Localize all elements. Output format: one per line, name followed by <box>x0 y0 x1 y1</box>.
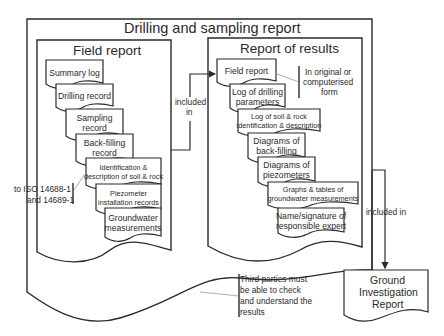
report-of-results-document-label: Log of soil & rock <box>251 112 307 121</box>
diagram-title: Drilling and sampling report <box>124 20 301 36</box>
field-report-document-label: Back-filling <box>84 138 126 148</box>
field-report-document-label: Drilling record <box>58 91 111 101</box>
ground-investigation-report: Ground Investigation Report <box>344 270 428 321</box>
field-report-document-label: record <box>82 123 107 133</box>
field-report-document-label: description of soil & rock <box>84 172 163 181</box>
field-report-document-label: measurements <box>105 223 162 233</box>
included-in-label-2: included in <box>366 207 406 217</box>
gir-line-1: Ground <box>370 274 405 286</box>
report-of-results-document-label: parameters <box>236 97 279 107</box>
form-note-line-1: In original or <box>305 67 351 77</box>
third-parties-line-2: be able to check <box>240 285 302 295</box>
iso-note-line-2: and 14689-1 <box>27 195 74 205</box>
report-of-results-document-label: Diagrams of <box>253 136 300 146</box>
report-of-results-heading: Report of results <box>240 41 339 56</box>
third-parties-note: Third parties must be able to check and … <box>200 274 313 317</box>
field-report-document-label: Summary log <box>49 68 100 78</box>
field-report-document-label: Identification & <box>100 163 148 172</box>
report-of-results-document-label: back-filling <box>256 146 297 156</box>
included-in-arrow-2 <box>372 170 385 268</box>
form-note-line-3: form <box>321 87 338 97</box>
drilling-sampling-diagram: Drilling and sampling report Field repor… <box>0 0 444 336</box>
gir-line-3: Report <box>372 298 404 310</box>
report-of-results-document-label: groundwater measurements <box>268 194 359 203</box>
included-in-label-line-1: included <box>175 97 207 107</box>
report-of-results-document-label: Graphs & tables of <box>283 185 344 194</box>
field-report-document-label: installation records <box>98 198 159 207</box>
report-of-results-document-label: piezometers <box>263 170 310 180</box>
third-parties-line-3: and understand the <box>240 296 313 306</box>
field-report-document-label: Sampling <box>77 113 113 123</box>
iso-note-line-1: to ISO 14688-1 <box>14 184 71 194</box>
report-of-results-document-label: identification & description <box>237 121 322 130</box>
third-parties-leader <box>200 292 239 296</box>
gir-line-2: Investigation <box>359 286 418 298</box>
field-report-document-label: Piezometer <box>110 189 147 198</box>
report-of-results-document-label: Field report <box>225 66 269 76</box>
field-report-document-label: record <box>92 148 117 158</box>
form-note-line-2: computerised <box>303 77 354 87</box>
field-report-document-label: Groundwater <box>108 213 158 223</box>
third-parties-line-4: results <box>240 307 265 317</box>
report-of-results-document-label: Diagrams of <box>263 160 310 170</box>
report-of-results-document-label: Log of drilling <box>232 87 283 97</box>
included-in-label-line-2: in <box>186 107 193 117</box>
field-report-heading: Field report <box>73 43 142 58</box>
third-parties-line-1: Third parties must <box>240 274 308 284</box>
report-of-results-document-label: Name/signature of <box>276 211 347 221</box>
report-of-results-document-label: responsible expert <box>276 221 347 231</box>
